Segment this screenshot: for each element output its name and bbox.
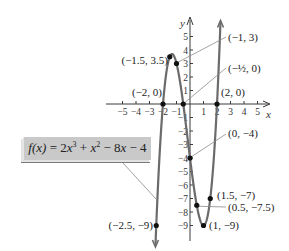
leader-line xyxy=(191,134,226,157)
point-label: (−1, 3) xyxy=(228,31,258,44)
eq-part: + xyxy=(77,140,91,155)
x-tick-label: −3 xyxy=(144,107,154,117)
y-tick-label: −6 xyxy=(178,181,188,191)
point-label: (1.5, −7) xyxy=(217,189,256,202)
y-tick-label: −9 xyxy=(178,221,188,231)
function-equation: f(x) = 2x3 + x2 − 8x − 4 xyxy=(24,140,151,156)
point-label: (1, −9) xyxy=(209,219,239,232)
x-tick-label: −5 xyxy=(117,107,127,117)
data-point xyxy=(174,61,179,66)
point-label: (2, 0) xyxy=(221,86,245,99)
x-tick-label: 1 xyxy=(201,107,206,117)
y-tick-label: −5 xyxy=(178,167,188,177)
point-label: (−1.5, 3.5) xyxy=(121,54,168,67)
function-label-box: f(x) = 2x3 + x2 − 8x − 4 xyxy=(23,137,151,160)
leader-line xyxy=(184,68,226,103)
y-tick-label: 2 xyxy=(183,73,188,83)
eq-part: = 2 xyxy=(46,140,66,155)
x-tick-label: 5 xyxy=(255,107,260,117)
data-point xyxy=(160,101,165,106)
data-point xyxy=(214,101,219,106)
point-label: (−2.5, −9) xyxy=(109,219,154,232)
y-tick-label: 3 xyxy=(183,59,188,69)
leader-line xyxy=(198,206,226,207)
y-tick-label: 5 xyxy=(183,32,188,42)
y-tick-label: −8 xyxy=(178,208,188,218)
leader-line xyxy=(123,163,156,199)
y-tick-label: −7 xyxy=(178,194,188,204)
data-point xyxy=(154,223,159,228)
y-tick-label: 1 xyxy=(183,86,188,96)
x-axis-label: x xyxy=(265,108,271,120)
y-tick-label: −4 xyxy=(178,154,188,164)
y-tick-label: −1 xyxy=(178,113,188,123)
x-tick-label: 4 xyxy=(242,107,247,117)
y-axis-label: y xyxy=(179,17,185,29)
point-label: (0, −4) xyxy=(228,127,258,140)
point-label: (−2, 0) xyxy=(132,86,162,99)
data-point xyxy=(187,155,192,160)
function-graph: −5−4−3−2−11234554321−1−2−3−4−5−6−7−8−9xy… xyxy=(0,0,289,251)
x-tick-label: 3 xyxy=(228,107,233,117)
data-point xyxy=(194,203,199,208)
function-label-underline xyxy=(21,162,150,163)
eq-part: − 4 xyxy=(126,140,146,155)
eq-part: − 8 xyxy=(100,140,120,155)
eq-lhs: f(x) xyxy=(28,140,46,155)
data-point xyxy=(201,223,206,228)
y-tick-label: 4 xyxy=(183,46,188,56)
data-point xyxy=(208,196,213,201)
y-tick-label: −3 xyxy=(178,140,188,150)
point-label: (0.5, −7.5) xyxy=(228,201,275,214)
point-label: (−½, 0) xyxy=(228,62,261,75)
data-point xyxy=(181,101,186,106)
x-tick-label: −4 xyxy=(131,107,141,117)
